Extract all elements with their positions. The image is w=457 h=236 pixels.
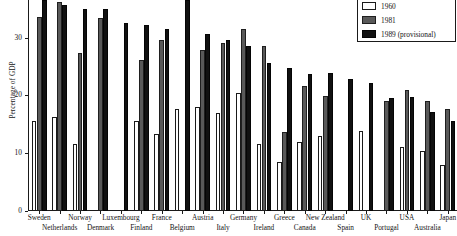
legend-label: 1989 (provisional) bbox=[381, 30, 436, 39]
bar bbox=[216, 113, 221, 211]
bar bbox=[308, 74, 313, 211]
bar bbox=[302, 86, 307, 211]
bar-group bbox=[277, 0, 292, 211]
bar-group bbox=[154, 0, 169, 211]
bar bbox=[144, 25, 149, 211]
bar bbox=[246, 46, 251, 211]
bar-group bbox=[257, 0, 272, 211]
y-tick-mark bbox=[25, 95, 28, 96]
bar bbox=[400, 147, 405, 211]
x-axis-labels: SwedenNetherlandsNorwayDenmarkLuxembourg… bbox=[28, 211, 457, 236]
bar bbox=[359, 131, 364, 211]
bar bbox=[430, 112, 435, 211]
bar-group bbox=[52, 0, 67, 211]
bar bbox=[62, 5, 67, 211]
bar bbox=[83, 9, 88, 211]
bar bbox=[200, 50, 205, 211]
legend-label: 1960 bbox=[381, 2, 396, 11]
y-tick-mark bbox=[25, 153, 28, 154]
bar-group bbox=[32, 0, 47, 211]
bar bbox=[185, 0, 190, 211]
y-tick-label: 10 bbox=[4, 149, 22, 156]
bar bbox=[221, 43, 226, 211]
bar bbox=[103, 9, 108, 211]
bar bbox=[410, 97, 415, 211]
bar bbox=[241, 29, 246, 211]
bar-group bbox=[216, 0, 231, 211]
bar bbox=[297, 142, 302, 211]
bar bbox=[451, 121, 456, 211]
bar-group bbox=[318, 0, 333, 211]
bar bbox=[78, 53, 83, 211]
bar-group bbox=[134, 0, 149, 211]
bar bbox=[323, 96, 328, 211]
bar bbox=[139, 60, 144, 211]
bar bbox=[425, 101, 430, 211]
bar bbox=[267, 63, 272, 211]
bar bbox=[124, 23, 129, 211]
bar bbox=[384, 101, 389, 211]
bar bbox=[389, 98, 394, 211]
bar bbox=[205, 34, 210, 211]
white-swatch bbox=[362, 2, 376, 10]
bar bbox=[226, 40, 231, 211]
bar bbox=[175, 109, 180, 211]
bar bbox=[32, 121, 37, 211]
bar bbox=[195, 107, 200, 211]
bar bbox=[37, 17, 42, 211]
bar bbox=[154, 134, 159, 211]
bar-group bbox=[297, 0, 312, 211]
bar bbox=[282, 132, 287, 211]
bar bbox=[369, 83, 374, 211]
bar-group bbox=[114, 0, 129, 211]
bar bbox=[257, 144, 262, 211]
bar bbox=[348, 79, 353, 211]
bar bbox=[42, 0, 47, 211]
bar bbox=[98, 18, 103, 211]
bar bbox=[73, 144, 78, 211]
bar-group bbox=[236, 0, 251, 211]
bar bbox=[159, 40, 164, 211]
gray-swatch bbox=[362, 16, 376, 24]
x-axis-label: Japan bbox=[408, 214, 457, 222]
bar bbox=[57, 2, 62, 211]
bar-group bbox=[73, 0, 88, 211]
bar bbox=[165, 29, 170, 211]
bar bbox=[236, 93, 241, 212]
y-tick-label: 30 bbox=[4, 34, 22, 41]
bar-group bbox=[338, 0, 353, 211]
y-tick-mark bbox=[25, 38, 28, 39]
bar bbox=[277, 162, 282, 211]
bar bbox=[262, 46, 267, 211]
bar-group bbox=[195, 0, 210, 211]
legend-label: 1981 bbox=[381, 16, 396, 25]
bar-group bbox=[93, 0, 108, 211]
x-axis-label: Australia bbox=[387, 224, 457, 232]
black-swatch bbox=[362, 30, 376, 38]
y-tick-label: 20 bbox=[4, 91, 22, 98]
bar bbox=[287, 68, 292, 211]
bar bbox=[318, 136, 323, 211]
bar bbox=[440, 165, 445, 211]
bar bbox=[134, 121, 139, 211]
bar bbox=[52, 117, 57, 211]
legend: 196019811989 (provisional) bbox=[357, 0, 456, 42]
bar bbox=[328, 73, 333, 211]
bar bbox=[420, 151, 425, 211]
bar-chart: Percentage of GDP 0102030 SwedenNetherla… bbox=[0, 0, 457, 236]
bar bbox=[405, 90, 410, 211]
bar bbox=[445, 109, 450, 211]
bar-group bbox=[175, 0, 190, 211]
